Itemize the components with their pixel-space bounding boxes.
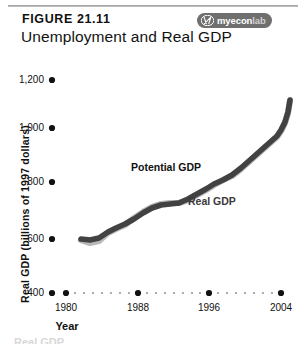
figure-panel: FIGURE 21.11 Unemployment and Real GDP m… — [0, 0, 304, 346]
y-axis-title: Real GDP (billions of 1997 dollars) — [19, 114, 31, 314]
x-tick-label-2004: 2004 — [261, 302, 301, 313]
x-tick-label-1996: 1996 — [189, 302, 229, 313]
x-tick-label-1980: 1980 — [46, 302, 86, 313]
y-tick-label-1200: 1,200 — [0, 74, 44, 85]
x-axis-minor-ticks — [74, 292, 273, 294]
chart-svg — [0, 0, 304, 346]
x-tick-label-1988: 1988 — [118, 302, 158, 313]
x-axis-title: Year — [46, 320, 88, 332]
annotation-potential-gdp: Potential GDP — [131, 161, 201, 173]
page-bleed-fragment: Real GDP — [14, 336, 64, 344]
annotation-real-gdp: Real GDP — [188, 195, 236, 207]
y-axis-tick-dots — [49, 77, 55, 296]
chart-plot-area — [0, 0, 304, 346]
